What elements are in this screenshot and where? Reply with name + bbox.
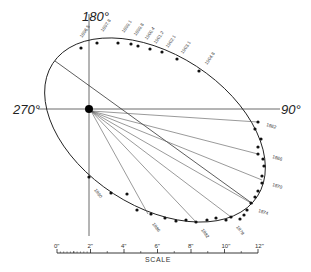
observation-dot bbox=[214, 216, 217, 219]
observation-dot bbox=[256, 145, 259, 148]
radius-vector bbox=[91, 111, 231, 217]
observation-dot bbox=[238, 217, 241, 220]
observation-dot bbox=[256, 152, 259, 155]
observation-dot bbox=[259, 137, 262, 140]
epoch-label: 1902.1 bbox=[165, 34, 177, 49]
observation-dot bbox=[261, 157, 264, 160]
observation-dot bbox=[253, 127, 256, 130]
observation-dot bbox=[87, 175, 90, 178]
observation-dot bbox=[125, 192, 128, 195]
observation-dot bbox=[260, 174, 263, 177]
observation-dot bbox=[136, 44, 139, 47]
observed-positions bbox=[79, 41, 265, 223]
observation-dot bbox=[160, 50, 163, 53]
epoch-label: 1878 bbox=[235, 225, 245, 237]
observation-dot bbox=[253, 195, 256, 198]
epoch-label: 1866 bbox=[272, 154, 284, 162]
radius-vector bbox=[91, 111, 258, 122]
radius-vector bbox=[91, 111, 262, 180]
observation-dot bbox=[242, 213, 245, 216]
observation-dot bbox=[95, 41, 98, 44]
observation-dot bbox=[245, 208, 248, 211]
epoch-label: 1899.1 bbox=[121, 19, 133, 34]
observation-dot bbox=[197, 69, 200, 72]
scale-tick-label: 6" bbox=[155, 243, 160, 249]
primary-star bbox=[85, 105, 93, 113]
epoch-label: 1901.2 bbox=[153, 30, 165, 45]
observation-dot bbox=[149, 212, 152, 215]
scale-tick-label: 10" bbox=[222, 243, 231, 249]
scale-tick-label: 8" bbox=[188, 243, 193, 249]
radius-vectors bbox=[91, 111, 262, 222]
observation-dot bbox=[175, 57, 178, 60]
observation-dot bbox=[224, 218, 227, 221]
axis-label-90: 90° bbox=[281, 102, 301, 117]
observation-dot bbox=[148, 47, 151, 50]
observation-dot bbox=[194, 220, 197, 223]
observation-dot bbox=[79, 46, 82, 49]
observation-dot bbox=[135, 208, 138, 211]
observation-dot bbox=[174, 219, 177, 222]
radius-vector bbox=[91, 111, 251, 203]
axis-label-270: 270° bbox=[12, 102, 40, 117]
epoch-label: 1870 bbox=[272, 182, 284, 190]
observation-dot bbox=[262, 164, 265, 167]
observation-dot bbox=[229, 215, 232, 218]
epoch-label: 1890 bbox=[93, 188, 103, 200]
epoch-label: 1874 bbox=[258, 208, 270, 216]
epoch-label: 1904.8 bbox=[204, 51, 216, 66]
observation-dot bbox=[256, 120, 259, 123]
observation-dot bbox=[256, 189, 259, 192]
line-of-apsides bbox=[55, 61, 253, 204]
observation-dot bbox=[129, 42, 132, 45]
epoch-label: 1886 bbox=[151, 222, 161, 234]
binary-orbit-diagram: 180° 270° 90° 1896.51897.81899.11899.819… bbox=[0, 0, 311, 272]
epoch-label: 1862 bbox=[266, 122, 278, 130]
scale-title: SCALE bbox=[145, 256, 171, 263]
epoch-label: 1882 bbox=[200, 228, 210, 240]
observation-dot bbox=[109, 191, 112, 194]
epoch-labels-right: 1862186618701874 bbox=[258, 122, 284, 216]
observation-dot bbox=[163, 216, 166, 219]
epoch-label: 1899.8 bbox=[133, 22, 145, 37]
scale-tick-label: 12" bbox=[255, 243, 264, 249]
epoch-labels-top: 1896.51897.81899.11899.81900.41901.21902… bbox=[79, 18, 216, 66]
scale-tick-label: 0" bbox=[54, 243, 59, 249]
observation-dot bbox=[116, 41, 119, 44]
observation-dot bbox=[184, 218, 187, 221]
observation-dot bbox=[249, 201, 252, 204]
scale-tick-label: 2" bbox=[88, 243, 93, 249]
observation-dot bbox=[205, 218, 208, 221]
scale-bar: 0"2"4"6"8"10"12" bbox=[54, 243, 264, 253]
epoch-label: 1903.1 bbox=[180, 40, 192, 55]
scale-tick-label: 4" bbox=[121, 243, 126, 249]
observation-dot bbox=[260, 181, 263, 184]
